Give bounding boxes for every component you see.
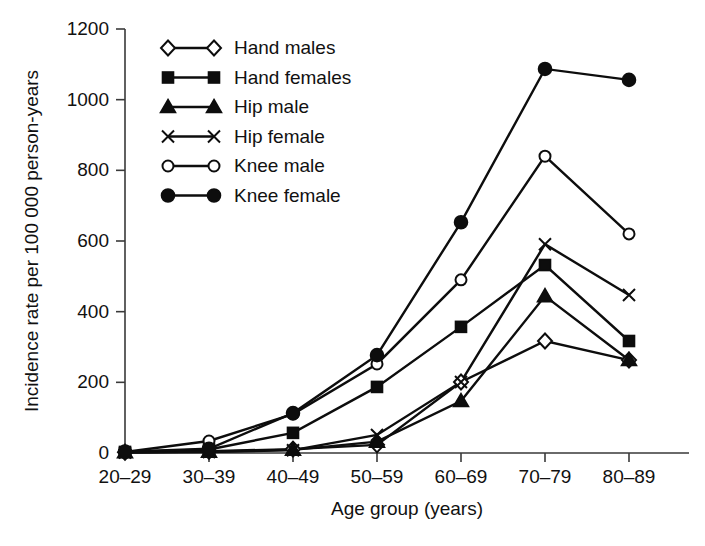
y-tick-label: 1200: [67, 18, 109, 39]
x-tick-label: 50–59: [351, 466, 404, 487]
series-line-hip-male: [125, 296, 629, 452]
y-axis-title: Incidence rate per 100 000 person-years: [21, 70, 42, 412]
legend-marker-knee-male: [163, 161, 174, 172]
legend-label-knee-female: Knee female: [234, 185, 341, 206]
x-tick-label: 20–29: [99, 466, 152, 487]
data-point-knee-female: [539, 62, 552, 75]
data-point-knee-female: [455, 216, 468, 229]
data-point-knee-male: [540, 151, 551, 162]
legend-marker-hand-females: [163, 72, 174, 83]
data-point-hip-female: [539, 238, 551, 250]
chart-axes: [125, 29, 689, 453]
data-point-knee-male: [456, 274, 467, 285]
series-line-knee-male: [125, 156, 629, 452]
data-point-hand-females: [456, 321, 467, 332]
legend-label-knee-male: Knee male: [234, 155, 325, 176]
data-point-knee-female: [119, 445, 132, 458]
legend-label-hip-female: Hip female: [234, 126, 325, 147]
y-tick-label: 600: [77, 230, 109, 251]
x-tick-label: 60–69: [435, 466, 488, 487]
legend-marker-hand-females: [209, 72, 220, 83]
data-point-knee-female: [287, 407, 300, 420]
legend-label-hand-males: Hand males: [234, 37, 335, 58]
legend-marker-knee-male: [209, 161, 220, 172]
x-tick-label: 80–89: [603, 466, 656, 487]
legend-marker-hand-males: [161, 41, 175, 56]
y-tick-label: 400: [77, 301, 109, 322]
data-point-knee-female: [371, 349, 384, 362]
y-tick-label: 1000: [67, 89, 109, 110]
y-tick-label: 800: [77, 159, 109, 180]
legend-marker-knee-female: [208, 189, 221, 202]
y-tick-label: 0: [98, 442, 109, 463]
data-point-hand-females: [372, 381, 383, 392]
data-point-knee-male: [624, 228, 635, 239]
legend-marker-knee-female: [162, 189, 175, 202]
chart-canvas: 02004006008001000120020–2930–3940–4950–5…: [0, 0, 705, 546]
x-tick-label: 70–79: [519, 466, 572, 487]
x-axis-title: Age group (years): [331, 498, 483, 519]
legend-label-hip-male: Hip male: [234, 96, 309, 117]
data-point-knee-female: [623, 73, 636, 86]
data-point-hip-female: [623, 289, 635, 301]
x-tick-label: 40–49: [267, 466, 320, 487]
legend-label-hand-females: Hand females: [234, 67, 351, 88]
data-point-hand-females: [624, 335, 635, 346]
y-tick-label: 200: [77, 371, 109, 392]
legend-marker-hand-males: [207, 41, 221, 56]
data-point-hand-females: [288, 427, 299, 438]
x-tick-label: 30–39: [183, 466, 236, 487]
series-line-knee-female: [125, 69, 629, 452]
data-point-knee-female: [203, 442, 216, 455]
data-point-hand-males: [538, 333, 552, 348]
data-point-hip-male: [538, 289, 553, 302]
incidence-rate-line-chart: 02004006008001000120020–2930–3940–4950–5…: [0, 0, 705, 546]
data-point-hand-females: [540, 260, 551, 271]
